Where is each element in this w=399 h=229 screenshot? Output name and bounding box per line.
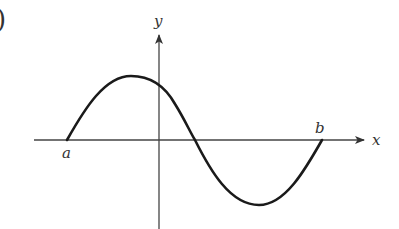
right-endpoint-label: b xyxy=(315,119,325,137)
graph-figure: ) y x a b xyxy=(0,0,399,229)
y-axis-label: y xyxy=(153,12,163,30)
x-axis-label: x xyxy=(372,131,381,149)
left-endpoint-label: a xyxy=(62,144,71,162)
part-marker: ) xyxy=(0,4,6,34)
